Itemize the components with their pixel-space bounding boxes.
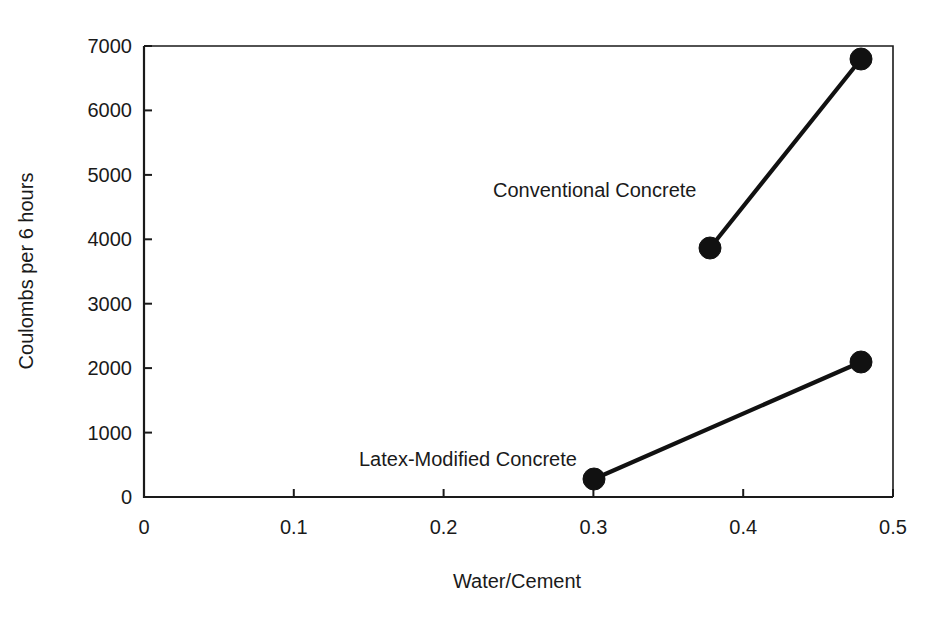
data-point-conventional-1 xyxy=(699,237,721,259)
series-conventional-concrete xyxy=(699,48,872,259)
y-tick-labels: 0 1000 2000 3000 4000 5000 6000 7000 xyxy=(88,35,133,508)
chart-page: 0 1000 2000 3000 4000 5000 6000 7000 0 0… xyxy=(0,0,946,624)
series-line-conventional xyxy=(710,59,861,248)
line-chart: 0 1000 2000 3000 4000 5000 6000 7000 0 0… xyxy=(0,0,946,624)
y-tick-label-1000: 1000 xyxy=(88,422,133,444)
x-tick-label-0.3: 0.3 xyxy=(579,516,607,538)
data-point-latex-2 xyxy=(850,351,872,373)
series-line-latex xyxy=(594,362,861,479)
y-axis-title: Coulombs per 6 hours xyxy=(15,173,37,370)
x-axis-title: Water/Cement xyxy=(453,570,582,592)
series-latex-modified-concrete xyxy=(583,351,872,490)
x-axis-ticks xyxy=(144,489,893,497)
x-tick-label-0.4: 0.4 xyxy=(729,516,757,538)
y-tick-label-3000: 3000 xyxy=(88,293,133,315)
y-tick-label-2000: 2000 xyxy=(88,357,133,379)
y-tick-label-6000: 6000 xyxy=(88,99,133,121)
data-point-latex-1 xyxy=(583,468,605,490)
x-tick-label-0.1: 0.1 xyxy=(280,516,308,538)
x-tick-labels: 0 0.1 0.2 0.3 0.4 0.5 xyxy=(138,516,906,538)
x-tick-label-0: 0 xyxy=(138,516,149,538)
y-tick-label-0: 0 xyxy=(121,486,132,508)
x-tick-label-0.2: 0.2 xyxy=(430,516,458,538)
plot-frame xyxy=(144,46,893,497)
series-label-conventional-concrete: Conventional Concrete xyxy=(493,179,696,201)
series-label-latex-modified-concrete: Latex-Modified Concrete xyxy=(359,448,577,470)
axes-lines xyxy=(144,46,893,497)
y-tick-label-4000: 4000 xyxy=(88,228,133,250)
y-axis-ticks xyxy=(144,46,152,497)
y-tick-label-7000: 7000 xyxy=(88,35,133,57)
x-tick-label-0.5: 0.5 xyxy=(879,516,907,538)
y-tick-label-5000: 5000 xyxy=(88,164,133,186)
data-point-conventional-2 xyxy=(850,48,872,70)
